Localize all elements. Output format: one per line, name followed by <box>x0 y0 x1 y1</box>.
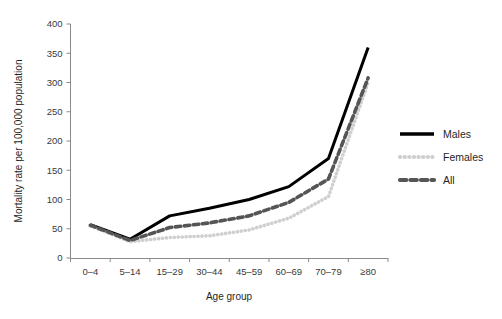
x-tick-label: 5–14 <box>119 266 140 277</box>
x-tick-label: 60–69 <box>276 266 302 277</box>
x-tick-label: ≥80 <box>360 266 376 277</box>
y-tick-label: 150 <box>47 165 63 176</box>
y-tick-label: 0 <box>57 252 62 263</box>
mortality-rate-line-chart: 050100150200250300350400 0–45–1415–2930–… <box>0 0 502 319</box>
x-tick-label: 30–44 <box>196 266 222 277</box>
y-axis-title: Mortality rate per 100,000 population <box>13 60 24 223</box>
y-tick-label: 50 <box>52 223 63 234</box>
y-tick-label: 350 <box>47 48 63 59</box>
legend-label-females: Females <box>443 151 483 163</box>
legend-label-males: Males <box>443 128 471 140</box>
x-tick-label: 45–59 <box>236 266 262 277</box>
y-tick-label: 300 <box>47 77 63 88</box>
x-tick-label: 15–29 <box>157 266 183 277</box>
legend-label-all: All <box>443 174 455 186</box>
x-tick-label: 70–79 <box>315 266 341 277</box>
x-tick-label: 0–4 <box>82 266 98 277</box>
y-tick-label: 400 <box>47 18 63 29</box>
y-tick-label: 100 <box>47 194 63 205</box>
x-axis-title: Age group <box>206 291 253 302</box>
chart-canvas: 050100150200250300350400 0–45–1415–2930–… <box>0 0 502 319</box>
y-tick-label: 200 <box>47 135 63 146</box>
y-tick-label: 250 <box>47 106 63 117</box>
